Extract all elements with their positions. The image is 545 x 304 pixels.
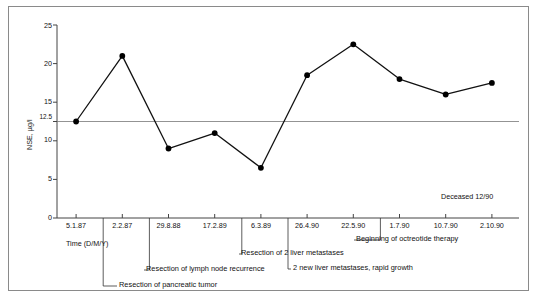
x-tick-label-3: 17.2.89 (191, 222, 239, 229)
data-point-3 (212, 130, 218, 136)
annotation-liver-metastases-resection: Resection of 2 liver metastases (241, 249, 344, 256)
x-tick-marks (76, 214, 492, 218)
data-point-markers (73, 41, 495, 170)
y-tick-label-10: 10 (30, 136, 52, 143)
data-point-8 (443, 92, 449, 98)
y-tick-label-12-5: 12.5 (26, 114, 52, 120)
annotation-new-liver-metastases: 2 new liver metastases, rapid growth (293, 264, 413, 271)
data-point-2 (166, 146, 172, 152)
y-tick-label-15: 15 (30, 98, 52, 105)
x-tick-label-7: 1.7.90 (376, 222, 424, 229)
data-point-1 (119, 53, 125, 59)
y-tick-label-20: 20 (30, 60, 52, 67)
annotation-octreotide-therapy: Beginning of octreotide therapy (356, 235, 458, 242)
annotation-lymph-node: Resection of lymph node recurrence (146, 265, 265, 272)
y-tick-marks (53, 25, 57, 218)
data-point-7 (397, 76, 403, 82)
data-point-6 (350, 41, 356, 47)
y-tick-label-25: 25 (30, 22, 52, 29)
data-point-9 (489, 80, 495, 86)
data-point-0 (73, 119, 79, 125)
data-line (76, 44, 492, 168)
y-tick-label-0: 0 (30, 214, 52, 221)
x-tick-label-0: 5.1.87 (52, 222, 100, 229)
x-axis-label: Time (D/M/Y) (66, 240, 108, 247)
x-tick-label-1: 2.2.87 (98, 222, 146, 229)
data-point-4 (258, 165, 264, 171)
x-tick-label-2: 29.8.88 (145, 222, 193, 229)
annotation-pancreatic-tumor: Resection of pancreatic tumor (119, 281, 217, 288)
y-tick-label-5: 5 (30, 175, 52, 182)
x-tick-label-9: 2.10.90 (468, 222, 516, 229)
nse-line-chart (0, 0, 545, 304)
data-point-5 (304, 72, 310, 78)
x-tick-label-6: 22.5.90 (329, 222, 377, 229)
deceased-note: Deceased 12/90 (441, 193, 493, 200)
x-tick-label-5: 26.4.90 (283, 222, 331, 229)
x-tick-label-4: 6.3.89 (237, 222, 285, 229)
x-tick-label-8: 10.7.90 (422, 222, 470, 229)
